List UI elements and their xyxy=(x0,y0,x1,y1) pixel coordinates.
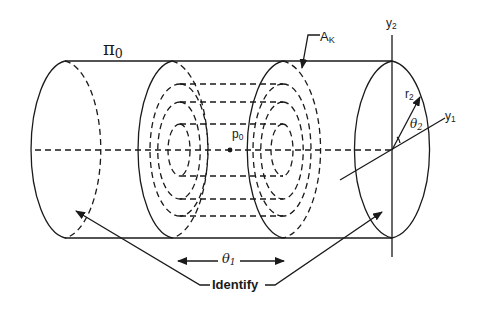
pi0-label: π0 xyxy=(103,40,123,61)
identify-leader-left xyxy=(76,211,210,285)
y1-label: y1 xyxy=(445,110,456,124)
cylinder-diagram xyxy=(0,0,477,310)
p0-point xyxy=(228,148,232,152)
identify-leader-right xyxy=(265,212,382,285)
ak-label: AK xyxy=(320,30,335,45)
nested-tori-right xyxy=(253,84,311,216)
ak-leader xyxy=(302,35,320,68)
identify-label: Identify xyxy=(212,278,258,291)
r2-label: r2 xyxy=(405,88,414,102)
y2-label: y2 xyxy=(386,17,397,31)
theta2-label: θ2 xyxy=(410,118,423,132)
theta1-label: θ1 xyxy=(222,252,236,267)
p0-label: p0 xyxy=(232,128,243,142)
